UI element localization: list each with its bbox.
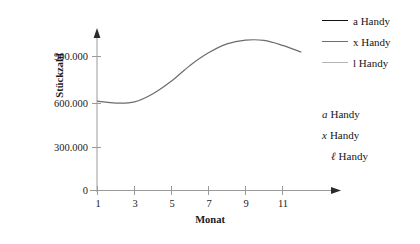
legend-line-swatch-icon: [322, 41, 348, 42]
y-tick-label-0-wrap: 0: [24, 185, 88, 186]
symbol-legend-item-a: aHandy: [322, 108, 408, 129]
symbol-legend-label-x: Handy: [330, 129, 359, 141]
legend-label-a-handy: a Handy: [353, 15, 390, 27]
legend-item-a-handy: a Handy: [322, 10, 418, 31]
x-tick-label-3: 3: [123, 198, 147, 209]
data-series-line: [98, 40, 302, 103]
x-tick-label-5: 5: [160, 198, 184, 209]
x-axis-title: Monat: [140, 214, 280, 225]
x-tick-label-11: 11: [271, 198, 295, 209]
y-tick-label-900000: 900.000: [24, 51, 88, 62]
x-axis: [90, 187, 341, 194]
y-tick-label-600000: 600.000: [24, 98, 88, 109]
symbol-legend-label-l: Handy: [339, 150, 368, 162]
legend-item-l-handy: l Handy: [322, 52, 418, 73]
legend-line-swatch-icon: [322, 20, 348, 21]
symbol-legend: aHandy xHandy ℓHandy: [322, 108, 408, 171]
y-tick-label-900000-wrap: 900.000: [24, 51, 88, 52]
symbol-legend-symbol-x: x: [322, 129, 330, 141]
y-tick-label-300000-wrap: 300.000: [24, 142, 88, 143]
y-tick-label-0: 0: [24, 185, 88, 196]
symbol-legend-item-x: xHandy: [322, 129, 408, 150]
x-tick-label-9: 9: [234, 198, 258, 209]
x-tick-label-1: 1: [86, 198, 110, 209]
chart-container: Stückzahl 900.000 600.000 300.000 0 1 3 …: [0, 0, 420, 244]
x-tick-label-7: 7: [197, 198, 221, 209]
symbol-legend-label-a: Handy: [331, 108, 360, 120]
legend-item-x-handy: x Handy: [322, 31, 418, 52]
legend-label-x-handy: x Handy: [353, 36, 391, 48]
y-tick-label-600000-wrap: 600.000: [24, 98, 88, 99]
y-axis: [94, 28, 101, 192]
y-tick-label-300000: 300.000: [24, 142, 88, 153]
legend: a Handy x Handy l Handy: [322, 10, 418, 73]
symbol-legend-item-l: ℓHandy: [322, 150, 408, 171]
symbol-legend-symbol-l: ℓ: [331, 150, 339, 162]
legend-line-swatch-icon: [322, 62, 348, 63]
legend-label-l-handy: l Handy: [353, 57, 388, 69]
symbol-legend-symbol-a: a: [322, 108, 331, 120]
